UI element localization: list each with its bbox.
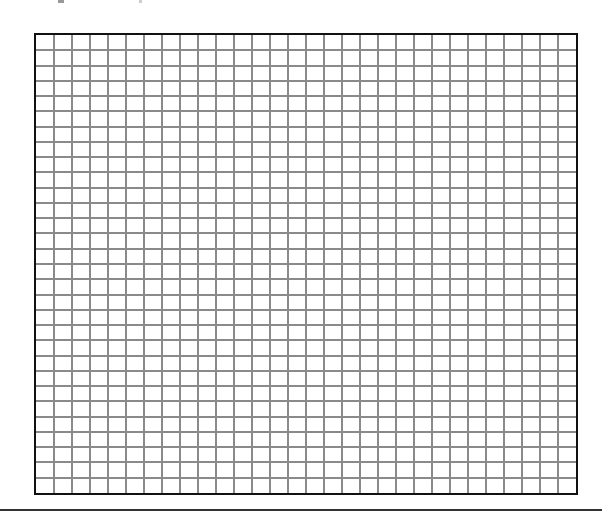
- grid-horizontal-line: [36, 431, 576, 433]
- grid-horizontal-line: [36, 171, 576, 173]
- cropped-text-fragment: [139, 0, 142, 3]
- grid-horizontal-line: [36, 400, 576, 402]
- grid-horizontal-line: [36, 355, 576, 357]
- grid-horizontal-line: [36, 446, 576, 448]
- grid-horizontal-line: [36, 324, 576, 326]
- grid-horizontal-line: [36, 263, 576, 265]
- grid-horizontal-line: [36, 477, 576, 479]
- grid-horizontal-line: [36, 202, 576, 204]
- cropped-text-fragment: [58, 0, 64, 3]
- grid-horizontal-line: [36, 217, 576, 219]
- grid-horizontal-line: [36, 187, 576, 189]
- grid-horizontal-line: [36, 416, 576, 418]
- grid-horizontal-line: [36, 110, 576, 112]
- grid-lines: [36, 35, 576, 493]
- grid-horizontal-line: [36, 141, 576, 143]
- grid-horizontal-line: [36, 294, 576, 296]
- grid-horizontal-line: [36, 385, 576, 387]
- grid-paper: [34, 33, 578, 495]
- grid-horizontal-line: [36, 339, 576, 341]
- grid-horizontal-line: [36, 49, 576, 51]
- grid-horizontal-line: [36, 370, 576, 372]
- grid-horizontal-line: [36, 278, 576, 280]
- grid-horizontal-line: [36, 80, 576, 82]
- grid-horizontal-line: [36, 248, 576, 250]
- grid-horizontal-line: [36, 309, 576, 311]
- horizontal-rule: [0, 509, 602, 511]
- grid-horizontal-line: [36, 126, 576, 128]
- grid-horizontal-line: [36, 461, 576, 463]
- grid-horizontal-line: [36, 232, 576, 234]
- grid-horizontal-line: [36, 65, 576, 67]
- grid-horizontal-line: [36, 156, 576, 158]
- grid-horizontal-line: [36, 95, 576, 97]
